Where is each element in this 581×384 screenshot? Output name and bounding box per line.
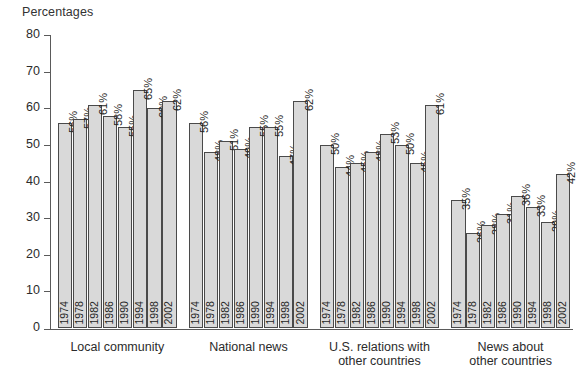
bar-value-label: 53% [376, 122, 387, 144]
bar: 51%1982 [219, 141, 233, 328]
bar-value-label: 26% [462, 221, 473, 243]
x-axis-category-label: 1990 [118, 301, 129, 324]
bar: 48%1978 [204, 152, 218, 328]
x-axis-category-label: 1986 [103, 301, 114, 324]
bar: 45%1998 [410, 163, 424, 328]
x-axis-category-label: 1978 [467, 301, 478, 324]
x-axis-category-label: 1998 [279, 301, 290, 324]
x-axis-category-label: 1982 [220, 301, 231, 324]
bar-value-label: 36% [507, 184, 518, 206]
bar-value-label: 47% [275, 144, 286, 166]
x-axis-category-label: 2002 [425, 301, 436, 324]
bar: 42%2002 [556, 174, 570, 328]
bar: 48%1986 [365, 152, 379, 328]
bar: 56%1974 [58, 123, 72, 328]
bar: 62%2002 [293, 101, 307, 328]
bar-value-label: 45% [406, 151, 417, 173]
bar: 53%1990 [380, 134, 394, 328]
x-axis-category-label: 1998 [541, 301, 552, 324]
x-axis-category-label: 1986 [234, 301, 245, 324]
bar-value-label: 62% [290, 89, 301, 111]
bar: 49%1986 [234, 149, 248, 328]
x-axis-line [44, 329, 573, 330]
bar: 55%1990 [249, 127, 263, 328]
x-axis-category-label: 1998 [410, 301, 421, 324]
bar: 45%1982 [350, 163, 364, 328]
bar-value-label: 33% [522, 195, 533, 217]
x-axis-category-label: 2002 [294, 301, 305, 324]
x-axis-category-label: 1998 [148, 301, 159, 324]
bar-value-label: 60% [144, 96, 155, 118]
bar-value-label: 65% [129, 78, 140, 100]
x-axis-category-label: 1994 [395, 301, 406, 324]
bar-value-label: 56% [185, 111, 196, 133]
x-axis-category-label: 1990 [512, 301, 523, 324]
x-axis-category-label: 1994 [133, 301, 144, 324]
x-axis-category-label: 1990 [249, 301, 260, 324]
x-axis-category-label: 2002 [163, 301, 174, 324]
bar: 28%1982 [481, 225, 495, 328]
bar-value-label: 48% [361, 140, 372, 162]
group-label: News aboutother countries [421, 340, 581, 368]
bar-value-label: 55% [245, 115, 256, 137]
bar-value-label: 35% [447, 188, 458, 210]
bar-value-label: 29% [537, 210, 548, 232]
bar-value-label: 51% [215, 129, 226, 151]
bar: 47%1998 [279, 156, 293, 328]
y-axis-tick-label: 30 [16, 210, 40, 224]
bar-value-label: 45% [346, 151, 357, 173]
bar-value-label: 50% [391, 133, 402, 155]
bar: 44%1978 [335, 167, 349, 328]
x-axis-category-label: 1982 [482, 301, 493, 324]
x-axis-category-label: 1974 [59, 301, 70, 324]
group-label-line: other countries [421, 354, 581, 368]
x-axis-category-label: 1978 [74, 301, 85, 324]
x-axis-category-label: 1986 [497, 301, 508, 324]
bar-value-label: 61% [421, 93, 432, 115]
bar-value-label: 49% [230, 137, 241, 159]
y-axis-tick-label: 0 [16, 320, 40, 334]
bar: 26%1978 [466, 233, 480, 328]
bar-value-label: 44% [331, 155, 342, 177]
bar: 65%1994 [133, 90, 147, 328]
x-axis-category-label: 1982 [88, 301, 99, 324]
x-axis-category-label: 2002 [556, 301, 567, 324]
bar: 29%1998 [541, 222, 555, 328]
bar-value-label: 62% [158, 89, 169, 111]
bar-value-label: 48% [200, 140, 211, 162]
bar-value-label: 55% [114, 115, 125, 137]
bar-value-label: 50% [316, 133, 327, 155]
bar-value-label: 56% [54, 111, 65, 133]
y-axis-tick-label: 50 [16, 137, 40, 151]
x-axis-category-label: 1974 [321, 301, 332, 324]
bar-value-label: 55% [260, 115, 271, 137]
x-axis-category-label: 1974 [190, 301, 201, 324]
bar-value-label: 58% [99, 104, 110, 126]
bar: 61%2002 [425, 105, 439, 328]
bar: 58%1986 [103, 116, 117, 328]
y-axis-tick-label: 70 [16, 64, 40, 78]
x-axis-category-label: 1986 [366, 301, 377, 324]
x-axis-category-label: 1978 [336, 301, 347, 324]
bar: 60%1998 [147, 108, 161, 328]
bar: 57%1978 [73, 119, 87, 328]
bar-value-label: 42% [552, 162, 563, 184]
x-axis-category-label: 1978 [205, 301, 216, 324]
x-axis-category-label: 1990 [380, 301, 391, 324]
x-axis-category-label: 1994 [526, 301, 537, 324]
bar-value-label: 57% [69, 107, 80, 129]
bar-value-label: 61% [84, 93, 95, 115]
y-axis-tick-label: 80 [16, 27, 40, 41]
bar-chart: Percentages 01020304050607080 Local comm… [0, 0, 581, 384]
bar: 55%1990 [118, 127, 132, 328]
bar: 31%1986 [496, 214, 510, 328]
bar: 35%1974 [451, 200, 465, 328]
y-axis-tick-label: 20 [16, 247, 40, 261]
bar: 61%1982 [88, 105, 102, 328]
group-label-line: News about [421, 340, 581, 354]
y-axis-title: Percentages [22, 5, 93, 19]
x-axis-category-label: 1974 [452, 301, 463, 324]
bar-value-label: 31% [492, 202, 503, 224]
x-axis-category-label: 1994 [264, 301, 275, 324]
x-axis-category-label: 1982 [351, 301, 362, 324]
